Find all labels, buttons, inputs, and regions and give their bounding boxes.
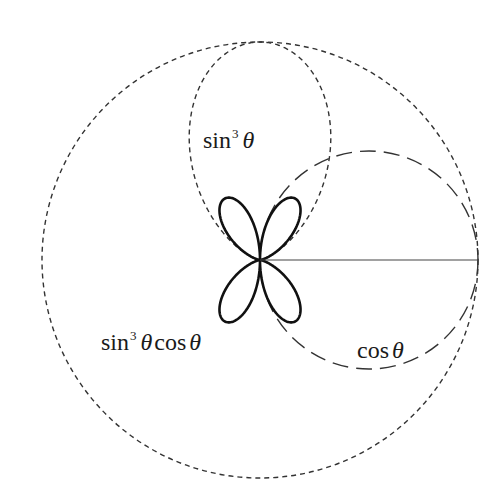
label-power: 3 (130, 328, 137, 343)
label-var: θ (243, 127, 255, 153)
label-func: sin (101, 329, 129, 355)
label-power: 3 (232, 126, 239, 141)
polar-diagram (0, 0, 496, 502)
label-var: θ (392, 337, 404, 363)
label-sin-cubed-cos: sin3θcosθ (101, 330, 201, 354)
label-sin-cubed-theta: sin3θ (203, 128, 254, 152)
label-cos-theta: cosθ (357, 338, 404, 362)
label-func: sin (203, 127, 231, 153)
label-var2: θ (189, 329, 201, 355)
label-func: cos (357, 337, 389, 363)
label-func2: cos (154, 329, 186, 355)
label-var: θ (141, 329, 153, 355)
